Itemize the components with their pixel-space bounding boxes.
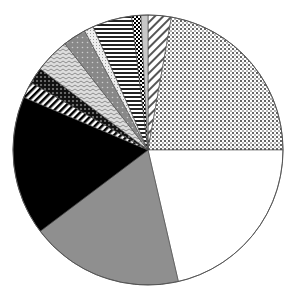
- pie-chart: [0, 0, 298, 297]
- pie-slice-dotted: [148, 17, 283, 150]
- pie-chart-svg: [0, 0, 298, 297]
